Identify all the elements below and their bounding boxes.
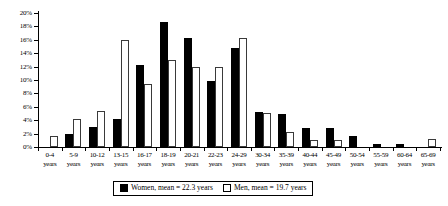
bar-women	[136, 65, 144, 147]
bar-group	[227, 13, 251, 147]
x-axis-label: 55-59years	[369, 151, 393, 168]
x-tick-mark	[274, 147, 275, 151]
x-tick-mark	[298, 147, 299, 151]
x-tick-mark	[38, 147, 39, 151]
bar-group	[109, 13, 133, 147]
x-axis-label: 35-39years	[274, 151, 298, 168]
chart-legend: Women, mean = 22.3 years Men, mean = 19.…	[113, 181, 313, 196]
bar-group	[133, 13, 157, 147]
bar-group	[203, 13, 227, 147]
bar-women	[302, 128, 310, 147]
bar-men	[286, 132, 294, 147]
bar-women	[255, 112, 263, 147]
x-axis-label: 30-34years	[251, 151, 275, 168]
x-axis-label: 16-17years	[133, 151, 157, 168]
x-axis-label: 50-54years	[345, 151, 369, 168]
bar-men	[168, 60, 176, 147]
x-axis-label: 10-12years	[85, 151, 109, 168]
legend-label-men: Men, mean = 19.7 years	[234, 184, 307, 192]
y-tick-label: 6%	[23, 103, 32, 110]
x-axis-label: 0-4years	[38, 151, 62, 168]
y-tick-label: 16%	[20, 36, 32, 43]
bar-women	[373, 144, 381, 147]
bar-men	[73, 119, 81, 147]
x-tick-mark	[393, 147, 394, 151]
x-tick-mark	[416, 147, 417, 151]
legend-swatch-men-icon	[223, 184, 231, 192]
bar-group	[85, 13, 109, 147]
bar-men	[263, 113, 271, 147]
bar-women	[349, 136, 357, 147]
bar-women	[65, 134, 73, 147]
x-tick-mark	[156, 147, 157, 151]
bar-women	[396, 144, 404, 147]
x-axis-label: 24-29years	[227, 151, 251, 168]
bar-group	[274, 13, 298, 147]
x-axis-label: 18-19years	[156, 151, 180, 168]
bar-group	[180, 13, 204, 147]
bar-group	[393, 13, 417, 147]
x-axis-label: 60-64years	[393, 151, 417, 168]
y-tick-label: 8%	[23, 90, 32, 97]
bar-men	[310, 140, 318, 147]
bar-men	[50, 136, 58, 147]
x-tick-mark	[369, 147, 370, 151]
bar-women	[184, 38, 192, 147]
x-tick-mark	[109, 147, 110, 151]
bar-men	[428, 139, 436, 147]
y-tick-label: 20%	[20, 10, 32, 17]
x-axis-label: 5-9years	[62, 151, 86, 168]
legend-item-men: Men, mean = 19.7 years	[223, 184, 307, 192]
bar-men	[192, 67, 200, 147]
x-axis-label: 40-44years	[298, 151, 322, 168]
y-tick-label: 18%	[20, 23, 32, 30]
y-tick-label: 14%	[20, 50, 32, 57]
bar-men	[121, 40, 129, 147]
x-axis-labels: 0-4years5-9years10-12years13-15years16-1…	[38, 151, 440, 168]
bar-groups	[38, 13, 440, 147]
bar-women	[160, 22, 168, 147]
x-tick-mark	[85, 147, 86, 151]
x-tick-mark	[440, 147, 441, 151]
x-tick-mark	[251, 147, 252, 151]
bar-women	[89, 127, 97, 147]
x-axis-label: 22-23years	[203, 151, 227, 168]
x-axis-line	[38, 147, 442, 148]
bar-group	[322, 13, 346, 147]
x-tick-mark	[322, 147, 323, 151]
bar-group	[345, 13, 369, 147]
bar-group	[62, 13, 86, 147]
x-axis-label: 65-69years	[416, 151, 440, 168]
x-tick-mark	[133, 147, 134, 151]
x-tick-mark	[180, 147, 181, 151]
x-tick-mark	[227, 147, 228, 151]
y-tick-label: 4%	[23, 117, 32, 124]
bar-group	[251, 13, 275, 147]
bar-women	[207, 81, 215, 147]
bar-men	[239, 38, 247, 147]
bar-women	[113, 119, 121, 147]
age-distribution-bar-chart: 20%18%16%14%12%10%8%6%4%2%0% 0-4years5-9…	[0, 0, 448, 206]
bar-men	[97, 111, 105, 147]
x-tick-mark	[62, 147, 63, 151]
bar-group	[369, 13, 393, 147]
bar-women	[231, 48, 239, 147]
bar-men	[215, 67, 223, 147]
x-axis-label: 45-49years	[322, 151, 346, 168]
legend-swatch-women-icon	[120, 184, 128, 192]
bar-women	[326, 128, 334, 147]
x-tick-mark	[345, 147, 346, 151]
bar-men	[144, 84, 152, 147]
y-tick-label: 12%	[20, 63, 32, 70]
bar-group	[298, 13, 322, 147]
x-axis-label: 20-21years	[180, 151, 204, 168]
x-tick-mark	[204, 147, 205, 151]
bar-group	[156, 13, 180, 147]
legend-item-women: Women, mean = 22.3 years	[120, 184, 213, 192]
x-axis-label: 13-15years	[109, 151, 133, 168]
y-tick-label: 0%	[23, 144, 32, 151]
y-tick-label: 2%	[23, 130, 32, 137]
bar-women	[278, 114, 286, 148]
legend-label-women: Women, mean = 22.3 years	[131, 184, 213, 192]
bar-group	[416, 13, 440, 147]
